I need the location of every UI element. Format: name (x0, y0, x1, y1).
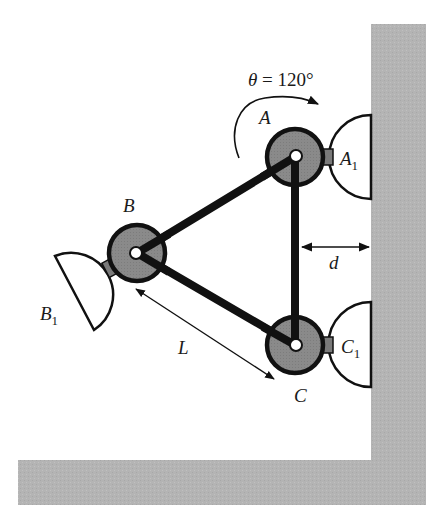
node-c-label: C (294, 385, 307, 406)
node-b-label: B (123, 195, 135, 216)
node-a-label: A (257, 107, 271, 128)
dimension-l-arrow (136, 289, 274, 379)
pin-b (130, 247, 142, 259)
pad-b1-label: B1 (40, 303, 58, 328)
hub-b (109, 225, 169, 281)
wall-floor (18, 460, 426, 505)
hub-c (263, 315, 323, 373)
wall-vertical (371, 24, 426, 505)
linkage-diagram: θ = 120° A B C A1 C1 B1 d L (0, 0, 443, 531)
distance-d-label: d (329, 252, 339, 273)
pin-c (290, 339, 302, 351)
hub-a (262, 129, 323, 187)
length-l-label: L (177, 337, 189, 358)
pad-b1 (55, 253, 118, 330)
pin-a (290, 150, 302, 162)
theta-label: θ = 120° (248, 69, 314, 90)
